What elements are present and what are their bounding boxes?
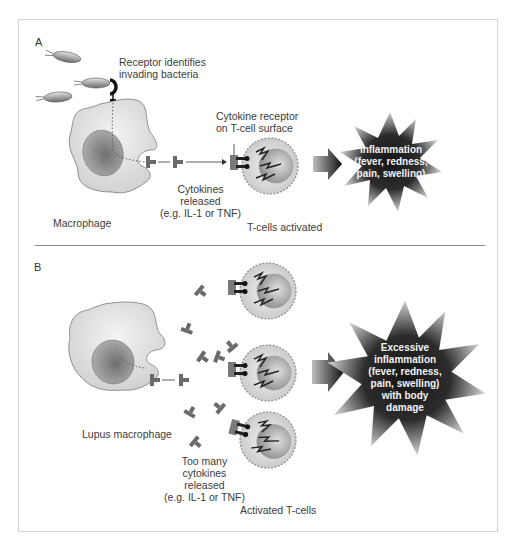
too-many-cytokines-label: Too many cytokines released (e.g. IL-1 o…: [164, 455, 245, 503]
excessive-inflammation-label: Excessive inflammation (fever, redness, …: [360, 342, 450, 414]
panel-b-letter: B: [34, 261, 41, 273]
cytokine-receptor-label: Cytokine receptor on T-cell surface: [216, 110, 298, 134]
receptor-label: Receptor identifies invading bacteria: [119, 56, 206, 80]
activated-t-cells-label: Activated T-cells: [240, 504, 316, 516]
diagram-art: [0, 0, 518, 551]
macrophage-label: Macrophage: [53, 217, 111, 229]
cytokines-released-label: Cytokines released (e.g. IL-1 or TNF): [160, 183, 241, 219]
t-cells-activated-label: T-cells activated: [247, 221, 322, 233]
inflammation-label: Inflammation (fever, redness, pain, swel…: [350, 144, 432, 180]
bacteria-group: [36, 48, 110, 103]
panel-a-letter: A: [35, 36, 42, 48]
lupus-macrophage-label: Lupus macrophage: [82, 428, 172, 440]
